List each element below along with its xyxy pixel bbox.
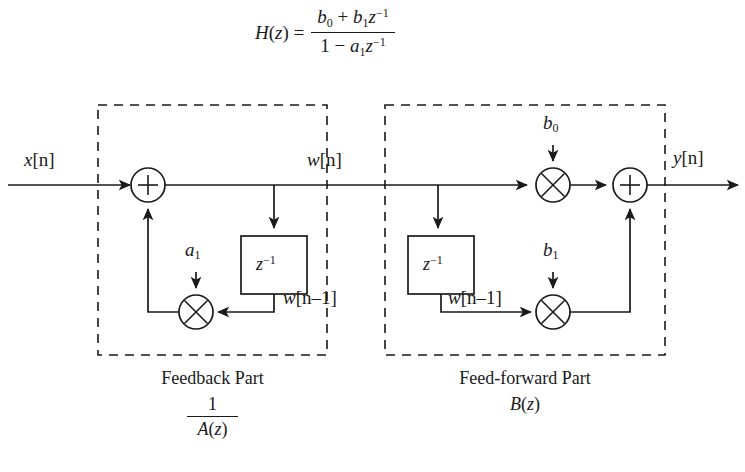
caption-feedback-formula: 1 A(z) <box>187 394 237 440</box>
label-output-yn: y[n] <box>673 148 704 167</box>
label-input-xn: x[n] <box>24 150 55 169</box>
caption-feedback-part: Feedback Part 1 A(z) <box>98 368 327 440</box>
label-coefficient-b0: b0 <box>543 113 559 134</box>
label-coefficient-a1: a1 <box>185 240 201 261</box>
delay-block-label-feedback: z−1 <box>256 254 276 273</box>
feedback-delay-out-path <box>218 294 274 312</box>
label-coefficient-b1: b1 <box>543 240 559 261</box>
caption-feedforward-part: Feed-forward Part B(z) <box>385 368 665 415</box>
caption-feedforward-title: Feed-forward Part <box>385 368 665 389</box>
delay-block-label-feedforward: z−1 <box>423 254 443 273</box>
label-delayed-wn1-feedforward: w[n–1] <box>448 288 502 307</box>
label-intermediate-wn: w[n] <box>307 150 342 169</box>
label-delayed-wn1-feedback: w[n–1] <box>283 288 337 307</box>
figure-canvas: H(z) = b0 + b1z−1 1 − a1z−1 <box>0 0 745 472</box>
caption-feedback-numerator: 1 <box>198 394 227 416</box>
b1-to-adder-path <box>570 209 630 312</box>
caption-feedback-denominator: A(z) <box>187 417 237 440</box>
feedback-return-path <box>148 209 179 312</box>
feedforward-section-box <box>385 105 665 355</box>
caption-feedforward-formula: B(z) <box>385 394 665 415</box>
caption-feedback-title: Feedback Part <box>98 368 327 389</box>
